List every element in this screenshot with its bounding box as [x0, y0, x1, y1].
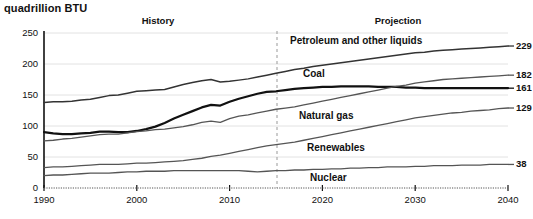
end-value-nuclear: 38: [516, 158, 527, 169]
x-axis-tick-label: 1990: [33, 194, 54, 205]
series-label-petroleum-and-other-liquids: Petroleum and other liquids: [290, 35, 422, 46]
y-axis-tick-label: 50: [10, 151, 38, 162]
series-label-renewables: Renewables: [307, 142, 365, 153]
series-lines: [44, 46, 508, 176]
x-axis-tick-label: 2020: [312, 194, 333, 205]
end-value-natural-gas: 182: [516, 69, 532, 80]
plot-area: [0, 0, 533, 219]
x-axis-tick-label: 2030: [405, 194, 426, 205]
y-axis-tick-label: 100: [10, 120, 38, 131]
x-axis-tick-label: 2010: [219, 194, 240, 205]
end-value-coal: 161: [516, 82, 532, 93]
y-axis-tick-label: 250: [10, 27, 38, 38]
series-label-nuclear: Nuclear: [310, 172, 347, 183]
series-line-petroleum-and-other-liquids: [44, 46, 508, 102]
x-axis-tick-label: 2040: [497, 194, 518, 205]
series-line-nuclear: [44, 164, 508, 175]
y-axis-tick-label: 150: [10, 89, 38, 100]
end-value-petroleum-and-other-liquids: 229: [516, 40, 532, 51]
end-value-renewables: 129: [516, 102, 532, 113]
energy-consumption-chart: quadrillion BTU History Projection 25020…: [0, 0, 533, 219]
series-label-coal: Coal: [303, 68, 325, 79]
series-label-natural-gas: Natural gas: [299, 110, 353, 121]
y-axis-tick-label: 200: [10, 58, 38, 69]
y-axis-tick-label: 0: [10, 182, 38, 193]
series-line-renewables: [44, 108, 508, 168]
series-line-coal: [44, 86, 508, 134]
end-value-connectors: [508, 46, 514, 164]
x-axis-tick-label: 2000: [126, 194, 147, 205]
